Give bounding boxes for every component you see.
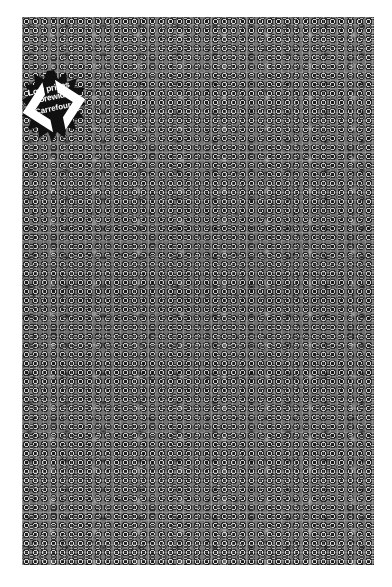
price-badge: Low prices storewide Carrefour	[22, 70, 86, 142]
